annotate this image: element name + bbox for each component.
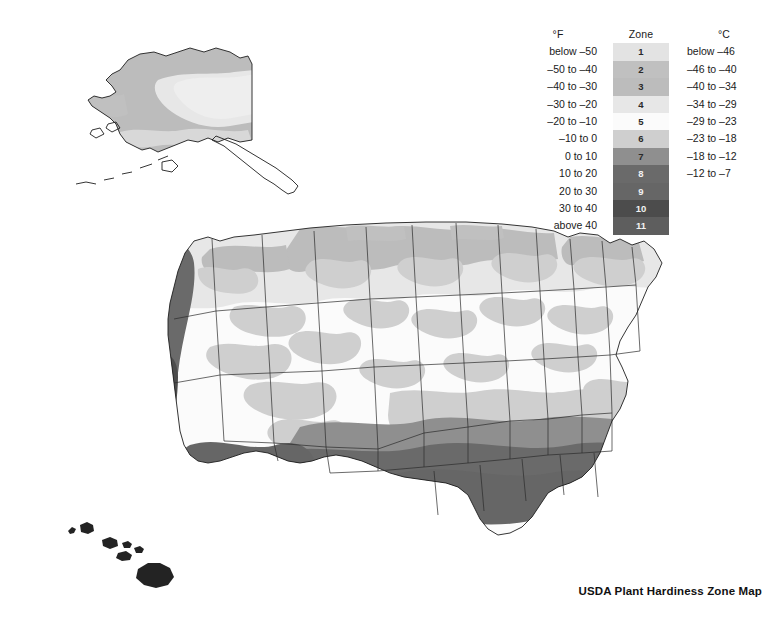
legend-celsius-range-10 [678,200,770,217]
legend-header-zone: Zone [604,26,678,43]
legend-zone-swatch-3: 3 [613,78,669,95]
hawaii-islands [68,522,174,588]
legend-zone-swatch-7: 7 [613,148,669,165]
legend-celsius-range-7: –18 to –12 [678,148,770,165]
legend-zone-swatch-1: 1 [613,43,669,60]
legend-celsius-range-9 [678,183,770,200]
legend-fahrenheit-range-1: below –50 [512,43,604,60]
legend-celsius-range-2: –46 to –40 [678,61,770,78]
legend-fahrenheit-range-6: –10 to 0 [512,130,604,147]
legend-fahrenheit-range-7: 0 to 10 [512,148,604,165]
conus-zone-fills [150,215,680,570]
alaska-zone-fills [62,22,312,207]
contiguous-us-map [150,215,680,570]
legend-header-fahrenheit: °F [512,26,604,43]
legend-header-celsius: °C [678,26,770,43]
legend-fahrenheit-range-8: 10 to 20 [512,165,604,182]
legend-zone-swatch-2: 2 [613,61,669,78]
legend-zone-swatch-6: 6 [613,130,669,147]
legend-fahrenheit-range-4: –30 to –20 [512,96,604,113]
alaska-inset-map [62,22,312,207]
legend-zone-swatch-8: 8 [613,165,669,182]
legend-celsius-range-3: –40 to –34 [678,78,770,95]
hawaii-inset-map [60,515,210,590]
page-title: USDA Plant Hardiness Zone Map [579,585,762,597]
legend-fahrenheit-range-3: –40 to –30 [512,78,604,95]
legend-fahrenheit-range-2: –50 to –40 [512,61,604,78]
legend-zone-swatch-5: 5 [613,113,669,130]
legend-celsius-range-4: –34 to –29 [678,96,770,113]
legend-zone-swatch-4: 4 [613,96,669,113]
legend-celsius-range-1: below –46 [678,43,770,60]
legend-celsius-range-5: –29 to –23 [678,113,770,130]
legend-fahrenheit-range-9: 20 to 30 [512,183,604,200]
legend-celsius-range-6: –23 to –18 [678,130,770,147]
legend-zone-swatch-9: 9 [613,183,669,200]
legend-fahrenheit-range-5: –20 to –10 [512,113,604,130]
legend-celsius-range-8: –12 to –7 [678,165,770,182]
legend-celsius-range-11 [678,217,770,234]
